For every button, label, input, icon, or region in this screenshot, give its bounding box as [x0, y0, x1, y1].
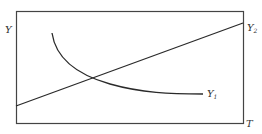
y2-label: Y2 [247, 22, 258, 34]
y1-label: Y1 [207, 88, 217, 100]
y-axis-label: Y [5, 24, 13, 35]
diagram: Y Y2 Y1 T [0, 0, 262, 134]
plot-frame [17, 12, 244, 124]
y1-label-subscript: 1 [214, 93, 218, 100]
x-axis-label: T [246, 118, 254, 129]
y2-label-subscript: 2 [253, 27, 258, 34]
